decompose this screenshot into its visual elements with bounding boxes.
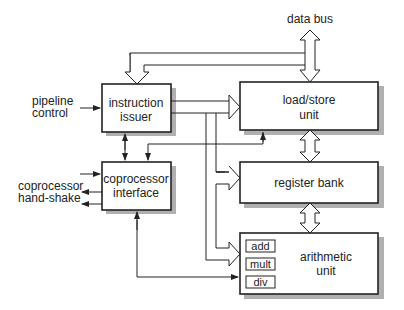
to-arithmetic-arrowhead <box>229 242 240 266</box>
div-subunit-label: div <box>253 276 268 288</box>
load-store-label-2: unit <box>299 108 319 122</box>
add-subunit-label: add <box>251 240 269 252</box>
load-store-label-1: load/store <box>283 93 336 107</box>
coprocessor-handshake-label-2: hand-shake <box>18 191 81 205</box>
processor-block-diagram: data bus pipeline control coprocessor ha… <box>0 0 404 310</box>
instruction-issuer-label-2: issuer <box>120 110 152 124</box>
register-bank-label: register bank <box>274 176 344 190</box>
mult-subunit-label: mult <box>250 258 271 270</box>
issuer-to-loadstore-arrowhead <box>229 95 240 119</box>
issuer-bus-arrowhead <box>125 53 149 84</box>
data-bus-label: data bus <box>287 12 333 26</box>
arithmetic-unit-label-1: arithmetic <box>300 250 352 264</box>
arithmetic-unit-label-2: unit <box>316 264 336 278</box>
to-register-bank-arrowhead <box>216 166 240 190</box>
data-bus-arrow <box>300 30 320 82</box>
instruction-issuer-label-1: instruction <box>109 96 164 110</box>
coprocessor-interface-label-2: interface <box>113 186 159 200</box>
pipeline-control-label-2: control <box>32 106 68 120</box>
coprocessor-interface-label-1: coprocessor <box>103 172 168 186</box>
